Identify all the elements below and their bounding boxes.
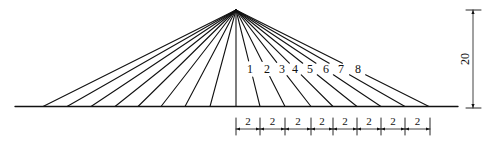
cable-number-label: 6 bbox=[323, 62, 329, 76]
height-dimension: 20 bbox=[458, 10, 481, 108]
cable-number-label: 7 bbox=[338, 62, 344, 76]
cable-line-upper bbox=[236, 10, 289, 63]
arrow-head-icon bbox=[311, 127, 315, 130]
cable-line-upper bbox=[236, 10, 303, 63]
cable-number-label: 4 bbox=[292, 62, 298, 76]
arrow-head-icon bbox=[405, 127, 409, 130]
cable-line-upper bbox=[236, 10, 342, 63]
cable-line bbox=[161, 10, 236, 107]
arrow-head-icon bbox=[357, 127, 361, 130]
cable-number-label: 8 bbox=[355, 62, 361, 76]
spacing-label: 2 bbox=[342, 115, 348, 127]
arrow-head-icon bbox=[377, 127, 381, 130]
spacing-label: 2 bbox=[366, 115, 372, 127]
cable-number-label: 5 bbox=[307, 62, 313, 76]
horizontal-spacing-dimension: 22222222 bbox=[236, 115, 430, 135]
spacing-label: 2 bbox=[415, 115, 421, 127]
arrow-head-icon bbox=[285, 127, 289, 130]
cable-line-upper bbox=[236, 10, 316, 63]
spacing-label: 2 bbox=[295, 115, 301, 127]
spacing-label: 2 bbox=[319, 115, 325, 127]
arrow-head-icon bbox=[260, 127, 264, 130]
arrow-head-icon bbox=[281, 127, 285, 130]
cable-number-label: 2 bbox=[264, 62, 270, 76]
arrow-head-icon bbox=[471, 10, 474, 14]
fan-cable-diagram: 12345678 22222222 20 bbox=[0, 0, 487, 143]
cable-line-lower bbox=[301, 75, 333, 107]
arrow-head-icon bbox=[426, 127, 430, 130]
arrow-head-icon bbox=[307, 127, 311, 130]
spacing-label: 2 bbox=[245, 115, 251, 127]
arrow-head-icon bbox=[401, 127, 405, 130]
cable-line-lower bbox=[317, 75, 357, 107]
arrow-head-icon bbox=[236, 127, 240, 130]
spacing-label: 2 bbox=[390, 115, 396, 127]
cable-labels: 12345678 bbox=[247, 62, 361, 76]
height-dimension-label: 20 bbox=[458, 53, 472, 65]
arrow-head-icon bbox=[333, 127, 337, 130]
cable-line-lower bbox=[253, 77, 260, 106]
cable-number-label: 1 bbox=[247, 62, 253, 76]
arrow-head-icon bbox=[353, 127, 357, 130]
left-cables bbox=[43, 10, 236, 107]
cable-line-lower bbox=[270, 76, 285, 106]
arrow-head-icon bbox=[381, 127, 385, 130]
arrow-head-icon bbox=[329, 127, 333, 130]
cable-number-label: 3 bbox=[279, 62, 285, 76]
spacing-label: 2 bbox=[270, 115, 276, 127]
arrow-head-icon bbox=[471, 104, 474, 108]
arrow-head-icon bbox=[256, 127, 260, 130]
cable-line bbox=[115, 10, 236, 107]
right-cables bbox=[236, 10, 429, 107]
cable-line bbox=[43, 10, 236, 107]
cable-line bbox=[138, 10, 236, 107]
